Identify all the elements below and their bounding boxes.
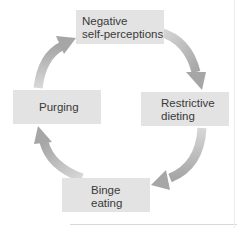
arrow-negative-to-restrictive-icon [160,32,206,90]
node-label-line: Binge [91,184,150,197]
node-label-line: Purging [39,101,101,114]
node-restrictive-dieting: Restrictive dieting [141,92,229,126]
arrow-restrictive-to-binge-icon [151,128,202,190]
node-label-line: dieting [161,110,229,123]
arrow-purging-to-negative-icon [38,36,76,88]
node-purging: Purging [13,90,101,124]
bottom-divider [70,224,237,225]
node-label-line: self-perceptions [82,28,164,41]
node-label-line: Restrictive [161,97,229,110]
node-label-line: Negative [82,15,164,28]
arrow-binge-to-purging-icon [34,126,82,178]
node-label-line: eating [91,197,150,210]
right-edge-divider [234,0,235,228]
node-binge-eating: Binge eating [62,178,150,212]
node-negative-self-perceptions: Negative self-perceptions [76,10,164,44]
